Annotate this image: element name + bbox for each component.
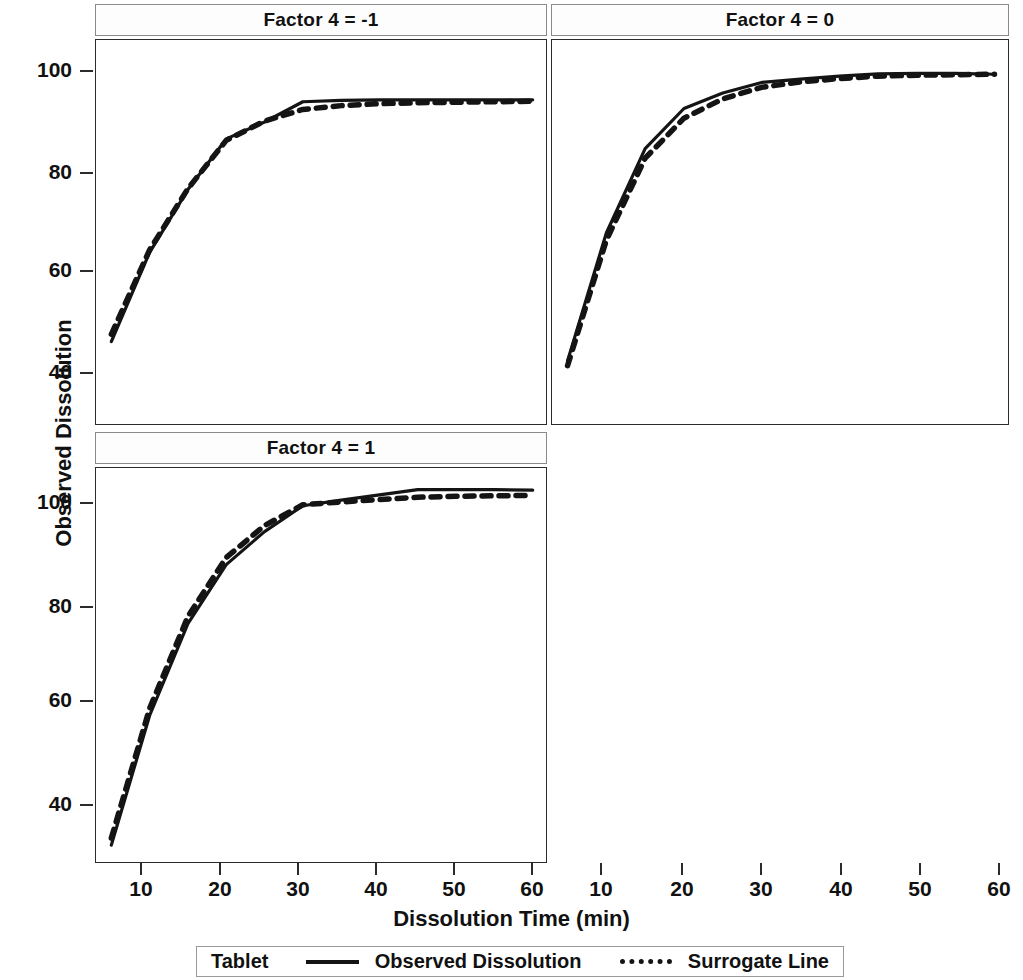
legend-group-label: Tablet bbox=[211, 950, 268, 973]
x-tick-mark-left-60 bbox=[531, 863, 533, 875]
y-tick-mark-top-40 bbox=[80, 372, 93, 374]
x-tick-mark-left-20 bbox=[219, 863, 221, 875]
panel-2-lines bbox=[552, 40, 1009, 425]
y-tick-mark-top-60 bbox=[80, 270, 93, 272]
series-line-observed bbox=[111, 100, 532, 342]
x-tick-mark-right-50 bbox=[919, 863, 921, 875]
x-tick-label-left-20: 20 bbox=[195, 877, 245, 901]
x-tick-mark-right-30 bbox=[760, 863, 762, 875]
legend-swatch-dashed-line bbox=[620, 959, 672, 964]
series-line-surrogate bbox=[568, 74, 995, 365]
x-tick-label-right-20: 20 bbox=[657, 877, 707, 901]
panel-plot-3 bbox=[95, 467, 547, 863]
x-tick-label-left-40: 40 bbox=[351, 877, 401, 901]
x-tick-label-right-60: 60 bbox=[974, 877, 1023, 901]
legend-swatch-solid-line bbox=[306, 960, 358, 964]
y-tick-mark-bottom-100 bbox=[80, 502, 93, 504]
series-line-surrogate bbox=[111, 495, 532, 838]
figure-root: Factor 4 = -1 Factor 4 = 0 Factor 4 = 1 … bbox=[0, 0, 1023, 980]
x-tick-mark-left-40 bbox=[375, 863, 377, 875]
y-tick-mark-bottom-40 bbox=[80, 804, 93, 806]
panel-header-1: Factor 4 = -1 bbox=[95, 4, 547, 36]
x-tick-mark-right-60 bbox=[998, 863, 1000, 875]
x-axis-title: Dissolution Time (min) bbox=[0, 906, 1023, 932]
panel-title-1: Factor 4 = -1 bbox=[263, 9, 378, 31]
y-axis-title: Observed Dissolution bbox=[51, 283, 77, 583]
panel-header-2: Factor 4 = 0 bbox=[551, 4, 1009, 36]
y-tick-label-top-80: 80 bbox=[0, 160, 72, 184]
legend-label-observed-dissolution: Observed Dissolution bbox=[375, 950, 582, 973]
legend-label-surrogate-line: Surrogate Line bbox=[688, 950, 829, 973]
y-tick-label-bottom-40: 40 bbox=[0, 792, 72, 816]
panel-3-lines bbox=[96, 468, 547, 863]
y-tick-label-top-60: 60 bbox=[0, 258, 72, 282]
x-tick-mark-right-40 bbox=[840, 863, 842, 875]
x-tick-label-left-60: 60 bbox=[507, 877, 557, 901]
x-tick-label-right-50: 50 bbox=[895, 877, 945, 901]
x-tick-label-right-30: 30 bbox=[736, 877, 786, 901]
x-tick-label-left-30: 30 bbox=[273, 877, 323, 901]
series-line-surrogate bbox=[111, 101, 532, 334]
panel-title-2: Factor 4 = 0 bbox=[726, 9, 835, 31]
x-tick-mark-left-50 bbox=[453, 863, 455, 875]
series-line-observed bbox=[568, 73, 995, 361]
y-tick-label-top-100: 100 bbox=[0, 58, 72, 82]
panel-plot-4-empty bbox=[551, 467, 1009, 863]
y-tick-label-bottom-60: 60 bbox=[0, 688, 72, 712]
x-tick-label-left-10: 10 bbox=[116, 877, 166, 901]
x-tick-label-left-50: 50 bbox=[429, 877, 479, 901]
series-line-observed bbox=[111, 490, 532, 845]
x-tick-mark-right-10 bbox=[600, 863, 602, 875]
x-tick-label-right-10: 10 bbox=[576, 877, 626, 901]
panel-plot-1 bbox=[95, 39, 547, 425]
x-tick-label-right-40: 40 bbox=[816, 877, 866, 901]
y-tick-mark-bottom-60 bbox=[80, 700, 93, 702]
y-tick-label-bottom-80: 80 bbox=[0, 594, 72, 618]
x-tick-mark-right-20 bbox=[681, 863, 683, 875]
y-tick-mark-top-100 bbox=[80, 70, 93, 72]
y-tick-mark-top-80 bbox=[80, 172, 93, 174]
y-tick-mark-bottom-80 bbox=[80, 606, 93, 608]
panel-header-3: Factor 4 = 1 bbox=[95, 432, 547, 464]
x-tick-mark-left-10 bbox=[140, 863, 142, 875]
legend: Tablet Observed Dissolution Surrogate Li… bbox=[196, 946, 844, 977]
panel-1-lines bbox=[96, 40, 547, 425]
panel-plot-2 bbox=[551, 39, 1009, 425]
x-tick-mark-left-30 bbox=[297, 863, 299, 875]
panel-title-3: Factor 4 = 1 bbox=[267, 437, 376, 459]
